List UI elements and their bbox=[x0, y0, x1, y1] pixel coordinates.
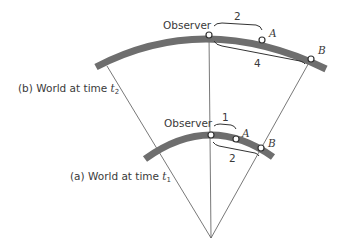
world-b-caption-text: (b) World at time bbox=[18, 82, 111, 94]
world-a-observer-dot bbox=[208, 132, 214, 138]
world-b-observer-dot bbox=[206, 32, 212, 38]
world-b-distance-observer-b: 4 bbox=[254, 58, 261, 69]
world-a-arc bbox=[145, 135, 273, 159]
world-a-distance-observer-b: 2 bbox=[229, 153, 236, 164]
world-b-observer-label: Observer bbox=[163, 20, 211, 31]
world-a-point-b-dot bbox=[258, 145, 264, 151]
world-b-caption: (b) World at time t2 bbox=[18, 83, 119, 96]
world-a-distance-observer-a: 1 bbox=[222, 112, 229, 123]
world-b-point-a-label: A bbox=[269, 28, 277, 39]
world-b-point-b-label: B bbox=[318, 45, 326, 56]
world-a-observer-label: Observer bbox=[164, 118, 212, 129]
world-a-point-a-dot bbox=[233, 136, 239, 142]
world-a-point-b-label: B bbox=[268, 138, 276, 149]
expanding-universe-diagram: Observer 2 A B 4 (b) World at time t2 Ob… bbox=[0, 0, 349, 247]
world-b-point-a-dot bbox=[259, 37, 265, 43]
world-a-brace-observer-a bbox=[214, 124, 236, 129]
world-b-arc bbox=[96, 39, 326, 69]
world-a-caption-sub: 1 bbox=[167, 176, 171, 184]
world-a-caption: (a) World at time t1 bbox=[70, 171, 171, 184]
world-b-caption-sub: 2 bbox=[115, 88, 119, 96]
world-a-point-a-label: A bbox=[242, 128, 250, 139]
world-b-distance-observer-a: 2 bbox=[234, 11, 241, 22]
world-b-brace-observer-a bbox=[214, 23, 262, 30]
world-b-point-b-dot bbox=[308, 56, 314, 62]
world-a-caption-text: (a) World at time bbox=[70, 170, 162, 182]
